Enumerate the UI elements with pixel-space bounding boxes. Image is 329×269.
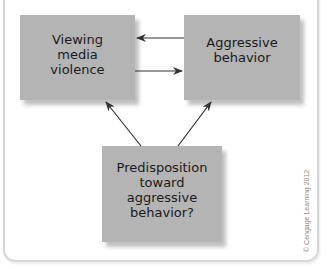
copyright-credit: © Cengage Learning 2012 bbox=[303, 170, 310, 252]
node-label: Aggressive behavior bbox=[206, 35, 277, 65]
diagram-canvas: Viewing media violence Aggressive behavi… bbox=[0, 0, 329, 269]
node-label: Predisposition toward aggressive behavio… bbox=[117, 160, 208, 220]
node-predisposition: Predisposition toward aggressive behavio… bbox=[102, 146, 222, 242]
node-aggressive-behavior: Aggressive behavior bbox=[184, 15, 300, 100]
node-label: Viewing media violence bbox=[50, 32, 104, 77]
node-viewing-media-violence: Viewing media violence bbox=[20, 15, 135, 100]
